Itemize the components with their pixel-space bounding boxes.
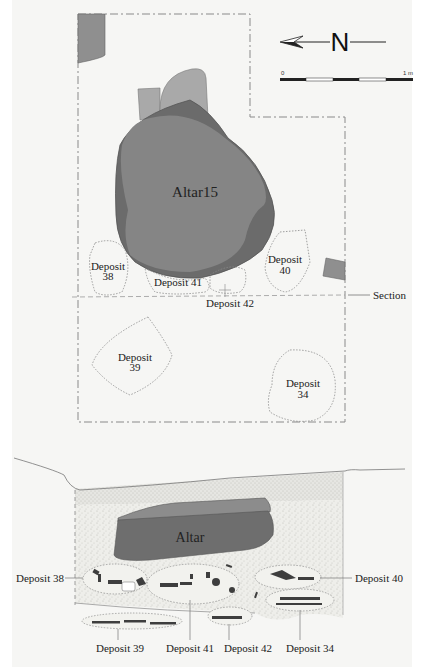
excavation-drawing: Altar15 Section Deposit 38 Deposit 40 De… (0, 0, 424, 667)
deposit-40-label-2: 40 (280, 264, 292, 276)
north-arrow-icon: N (280, 27, 386, 57)
stone-right (323, 258, 345, 280)
deposit-41-label: Deposit 41 (154, 276, 202, 288)
deposit-34-label-2: 34 (298, 388, 310, 400)
callout-deposit-38: Deposit 38 (16, 572, 64, 584)
callout-deposit-39: Deposit 39 (96, 642, 144, 654)
deposit-39-label-2: 39 (130, 361, 142, 373)
section-label: Section (373, 289, 406, 301)
datum-cross (219, 284, 231, 297)
deposit-42-label: Deposit 42 (206, 297, 254, 309)
callout-deposit-34: Deposit 34 (286, 642, 334, 654)
stone-top-left (78, 14, 105, 63)
scale-bar: 0 1 m (280, 70, 413, 81)
section-view: Altar (14, 458, 405, 654)
topsoil-layer (75, 472, 343, 505)
altar15-label: Altar15 (172, 184, 218, 200)
north-label: N (331, 27, 350, 57)
scale-end-label: 1 m (403, 70, 413, 76)
deposit-38-label-2: 38 (103, 270, 115, 282)
callout-deposit-41: Deposit 41 (166, 642, 214, 654)
callout-deposit-42: Deposit 42 (224, 642, 272, 654)
scale-start-label: 0 (281, 70, 285, 76)
plan-view: Altar15 Section Deposit 38 Deposit 40 De… (72, 14, 406, 422)
callout-deposit-40: Deposit 40 (355, 572, 403, 584)
altar-section-label: Altar (176, 530, 205, 545)
white-stone (122, 582, 135, 591)
section-deposit-38 (83, 564, 147, 594)
